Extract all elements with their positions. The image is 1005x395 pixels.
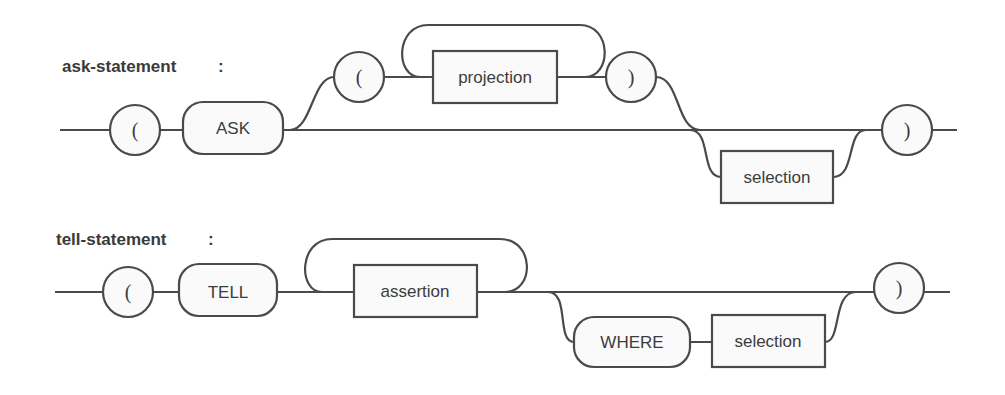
ask-projection-label: projection bbox=[458, 68, 532, 87]
tell-open-paren-label: ( bbox=[125, 281, 132, 304]
tell-statement-rule: tell-statement : ( TELL assertion WHERE … bbox=[55, 230, 950, 367]
ask-open-paren-label: ( bbox=[132, 119, 139, 142]
ask-projection-branch-out bbox=[656, 77, 700, 130]
ask-statement-colon: : bbox=[218, 57, 224, 76]
tell-statement-title: tell-statement bbox=[56, 230, 167, 249]
tell-close-paren-label: ) bbox=[896, 277, 903, 300]
ask-close-paren-label: ) bbox=[904, 119, 911, 142]
ask-optional-close-paren-label: ) bbox=[628, 66, 635, 89]
tell-assertion-label: assertion bbox=[381, 282, 450, 301]
tell-keyword-label: TELL bbox=[208, 283, 249, 302]
tell-where-label: WHERE bbox=[600, 333, 663, 352]
ask-statement-rule: ask-statement : ( ASK ( projection ) sel… bbox=[60, 25, 957, 203]
ask-projection-branch-in bbox=[290, 77, 334, 130]
ask-statement-title: ask-statement bbox=[62, 57, 177, 76]
tell-selection-label: selection bbox=[734, 332, 801, 351]
tell-statement-colon: : bbox=[208, 230, 214, 249]
ask-selection-label: selection bbox=[743, 168, 810, 187]
syntax-diagram: ask-statement : ( ASK ( projection ) sel… bbox=[0, 0, 1005, 395]
ask-optional-open-paren-label: ( bbox=[356, 66, 363, 89]
ask-keyword-label: ASK bbox=[216, 119, 251, 138]
